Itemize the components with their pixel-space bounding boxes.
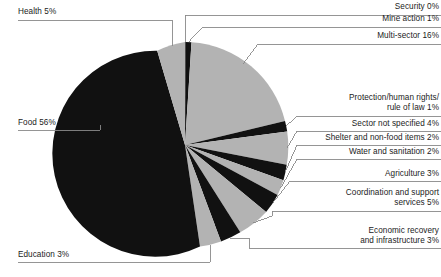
label-health: Health 5% (18, 7, 56, 17)
pie-chart-figure: Health 5% Security 0% Mine action 1% Mul… (0, 0, 441, 277)
label-water-sanitation: Water and sanitation 2% (209, 147, 439, 157)
label-shelter: Shelter and non-food items 2% (209, 133, 439, 143)
label-protection-line1: Protection/human rights/ (219, 93, 439, 103)
label-security: Security 0% (239, 2, 439, 12)
label-mine-action: Mine action 1% (239, 14, 439, 24)
label-education: Education 3% (18, 250, 69, 260)
label-food: Food 56% (18, 118, 56, 128)
leader-health (18, 20, 172, 46)
label-coordination-line2: services 5% (209, 198, 439, 208)
label-agriculture: Agriculture 3% (209, 169, 439, 179)
leader-coordination (253, 211, 441, 223)
label-economic-line1: Economic recovery (209, 226, 439, 236)
label-economic-line2: and infrastructure 3% (209, 236, 439, 246)
label-sector-not-specified: Sector not specified 4% (209, 119, 439, 129)
label-coordination-line1: Coordination and support (209, 188, 439, 198)
leader-multi-sector (243, 44, 441, 64)
label-multi-sector: Multi-sector 16% (239, 31, 439, 41)
label-protection-line2: rule of law 1% (219, 103, 439, 113)
